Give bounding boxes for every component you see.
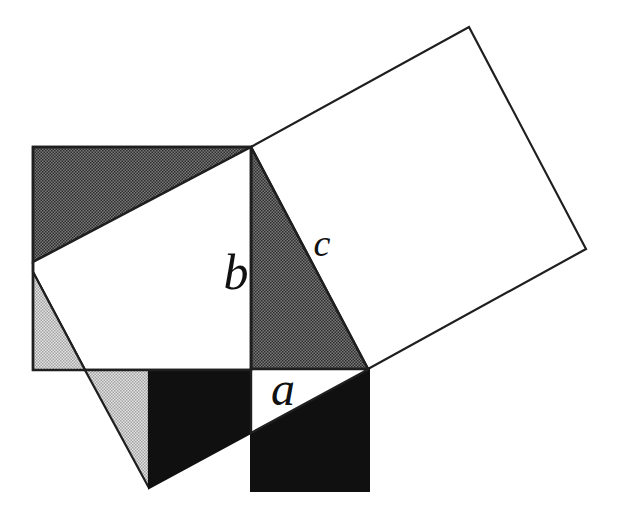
- diagram-page: b c a: [0, 0, 624, 522]
- label-side-b: b: [224, 244, 249, 300]
- label-side-c: c: [314, 222, 331, 264]
- light-halftone-triangle-bottom: [85, 370, 149, 488]
- black-quad-piece: [149, 370, 251, 488]
- label-side-a: a: [271, 362, 295, 415]
- pythagoras-diagram: b c a: [0, 0, 624, 522]
